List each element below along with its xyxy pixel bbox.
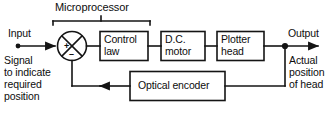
block-diagram-canvas: Microprocessor + – Input Signal to indic… <box>0 0 333 123</box>
block-optical-encoder-label: Optical encoder <box>138 80 209 92</box>
input-arrow <box>16 44 55 49</box>
output-label: Output <box>288 28 319 40</box>
input-description-line-4: position <box>4 91 39 103</box>
summing-junction-minus-sign: – <box>69 50 74 59</box>
block-dc-motor-label-line-2: motor <box>165 46 191 58</box>
block-plotter-head-label-line-2: head <box>221 46 244 58</box>
diagram-vector-layer <box>0 0 333 123</box>
block-dc-motor-label-line-1: D.C. <box>165 34 185 46</box>
microprocessor-bracket <box>53 16 150 25</box>
microprocessor-bracket-label: Microprocessor <box>55 2 129 14</box>
output-description-line-3: of head <box>289 79 323 91</box>
block-plotter-head-label-line-1: Plotter <box>221 34 250 46</box>
output-node-dot <box>282 43 288 49</box>
input-label: Input <box>8 28 31 40</box>
block-control-law-label-line-1: Control <box>104 34 137 46</box>
block-control-law-label-line-2: law <box>104 46 119 58</box>
